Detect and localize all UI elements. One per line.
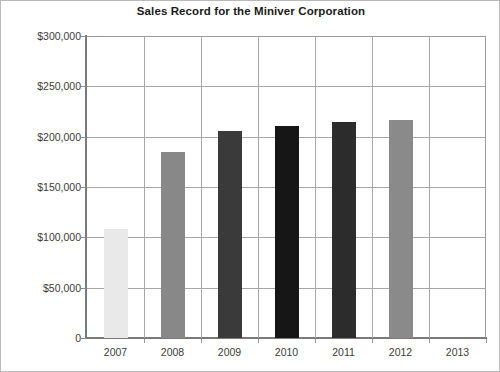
x-axis-tick-mark — [144, 339, 145, 343]
gridline-vertical — [429, 36, 430, 338]
x-axis-tick-label-2012: 2012 — [371, 346, 431, 358]
bar-2012 — [389, 120, 413, 338]
x-axis-tick-label-2013: 2013 — [428, 346, 488, 358]
x-axis-tick-label-2010: 2010 — [257, 346, 317, 358]
bar-chart-figure: Sales Record for the Miniver Corporation… — [0, 0, 500, 372]
y-axis-tick-mark — [81, 237, 86, 238]
gridline-vertical — [315, 36, 316, 338]
bar-2011 — [332, 122, 356, 338]
y-axis-tick-mark — [81, 338, 86, 339]
x-axis-tick-label-2011: 2011 — [314, 346, 374, 358]
y-axis-tick-label: $300,000 — [3, 30, 81, 42]
x-axis-tick-label-2008: 2008 — [143, 346, 203, 358]
bar-2010 — [275, 126, 299, 338]
x-axis-tick-label-2009: 2009 — [200, 346, 260, 358]
x-axis-tick-mark — [258, 339, 259, 343]
gridline-vertical — [201, 36, 202, 338]
bar-2009 — [218, 131, 242, 338]
gridline-vertical — [144, 36, 145, 338]
y-axis-tick-mark — [81, 86, 86, 87]
x-axis-tick-mark — [315, 339, 316, 343]
x-axis-tick-mark — [486, 339, 487, 343]
bar-2008 — [161, 152, 185, 338]
y-axis-tick-mark — [81, 187, 86, 188]
y-axis-tick-label: $200,000 — [3, 131, 81, 143]
x-axis-tick-mark — [372, 339, 373, 343]
y-axis-tick-mark — [81, 36, 86, 37]
plot-area — [87, 36, 486, 338]
y-axis-tick-label: $150,000 — [3, 181, 81, 193]
y-axis-tick-mark — [81, 288, 86, 289]
gridline-horizontal — [87, 86, 486, 87]
x-axis-tick-mark — [201, 339, 202, 343]
y-axis-tick-label: $50,000 — [3, 282, 81, 294]
gridline-vertical — [258, 36, 259, 338]
y-axis-tick-mark — [81, 137, 86, 138]
y-axis-tick-labels: $300,000$250,000$200,000$150,000$100,000… — [1, 1, 81, 372]
x-axis-tick-label-2007: 2007 — [86, 346, 146, 358]
gridline-vertical — [372, 36, 373, 338]
bar-2007 — [104, 229, 128, 338]
y-axis-tick-label: 0 — [3, 332, 81, 344]
x-axis-tick-mark — [429, 339, 430, 343]
y-axis-tick-label: $250,000 — [3, 80, 81, 92]
y-axis-tick-label: $100,000 — [3, 231, 81, 243]
